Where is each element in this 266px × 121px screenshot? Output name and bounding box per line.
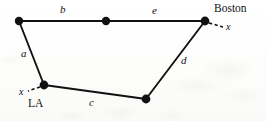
dashed-stub-la-line bbox=[28, 87, 40, 91]
vertex-boston-dot bbox=[201, 17, 210, 26]
edge-label-d: d bbox=[181, 55, 187, 66]
vertex-top-middle-dot bbox=[102, 17, 110, 25]
edge-label-b: b bbox=[60, 4, 66, 15]
edge-label-a: a bbox=[21, 48, 27, 59]
edge-line-d bbox=[146, 21, 205, 99]
stub-label-x-la: x bbox=[19, 87, 23, 97]
dashed-stubs bbox=[28, 23, 223, 91]
edge-label-e: e bbox=[152, 5, 157, 16]
vertex-la-dot bbox=[40, 81, 49, 90]
city-label-la: LA bbox=[28, 98, 43, 110]
edge-line-c bbox=[44, 85, 146, 99]
dashed-stub-boston-line bbox=[209, 23, 223, 27]
edge-label-c: c bbox=[89, 97, 94, 108]
vertex-top-left-dot bbox=[15, 17, 23, 25]
graph-figure: b e a d c Boston LA x x bbox=[0, 0, 266, 121]
stub-label-x-boston: x bbox=[226, 22, 230, 32]
vertex-bottom-right-dot bbox=[142, 95, 151, 104]
city-label-boston: Boston bbox=[214, 3, 247, 15]
